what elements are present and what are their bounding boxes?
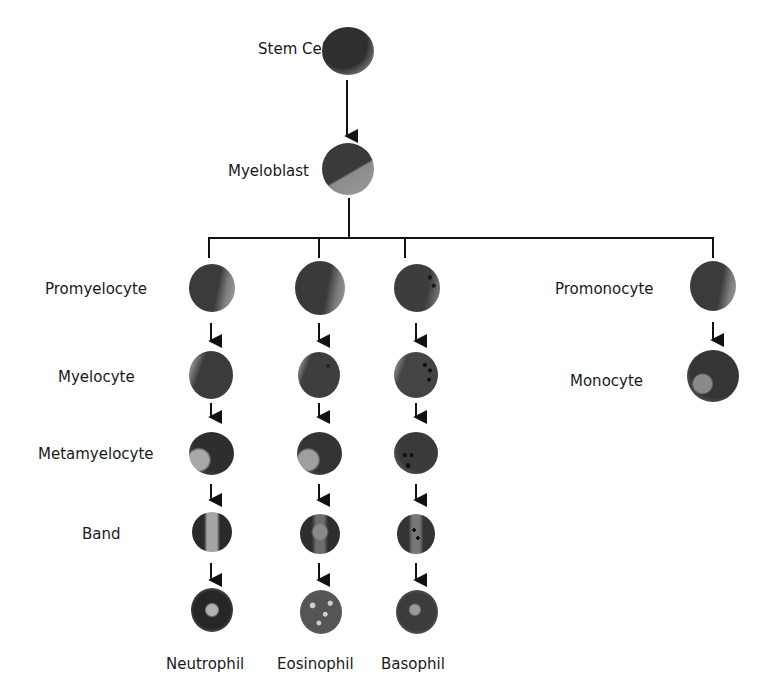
myelocyte-basophil-image	[394, 352, 438, 398]
label-myeloblast: Myeloblast	[228, 162, 309, 180]
metamyelocyte-neutrophil-image	[189, 432, 234, 475]
connector-lines	[0, 0, 774, 692]
label-basophil: Basophil	[381, 655, 445, 673]
label-band: Band	[82, 525, 121, 543]
band-basophil-image	[397, 514, 435, 554]
promyelocyte-neutrophil-image	[189, 264, 235, 312]
label-metamyelocyte: Metamyelocyte	[38, 445, 154, 463]
label-myelocyte: Myelocyte	[58, 368, 135, 386]
metamyelocyte-eosinophil-image	[297, 432, 342, 475]
promyelocyte-eosinophil-image	[295, 261, 345, 315]
myelocyte-eosinophil-image	[298, 352, 340, 398]
promonocyte-image	[690, 261, 736, 311]
stem-cell-image	[322, 27, 374, 75]
promyelocyte-basophil-image	[394, 264, 440, 312]
monocyte-image	[687, 350, 739, 402]
label-eosinophil: Eosinophil	[277, 655, 354, 673]
metamyelocyte-basophil-image	[394, 432, 438, 474]
label-neutrophil: Neutrophil	[166, 655, 244, 673]
label-promyelocyte: Promyelocyte	[45, 280, 147, 298]
eosinophil-image	[300, 590, 342, 634]
basophil-image	[396, 590, 438, 634]
label-monocyte: Monocyte	[570, 372, 643, 390]
band-neutrophil-image	[192, 512, 232, 552]
band-eosinophil-image	[300, 514, 340, 554]
label-stem-cell: Stem Cell	[258, 40, 330, 58]
myelocyte-neutrophil-image	[189, 351, 233, 399]
neutrophil-image	[191, 588, 233, 632]
myeloblast-image	[322, 143, 374, 195]
label-promonocyte: Promonocyte	[555, 280, 654, 298]
